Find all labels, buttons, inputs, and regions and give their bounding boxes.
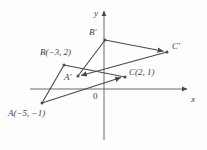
segment-b-c	[64, 65, 125, 77]
vertex-cprime-marker	[166, 51, 169, 54]
point-label-b-prime: B′	[89, 28, 96, 37]
point-label-a-prime: A′	[64, 73, 71, 82]
vertex-c-marker	[124, 76, 127, 79]
vertex-aprime-marker	[77, 75, 80, 78]
point-label-c: C(2, 1)	[129, 68, 155, 77]
point-label-a: A(−5, −1)	[8, 109, 45, 118]
x-axis-label: x	[191, 95, 195, 104]
segment-bprime-cprime	[105, 40, 164, 51]
vertex-a-marker	[41, 102, 44, 105]
y-axis-label: y	[94, 9, 98, 18]
coordinate-plane-figure: y x 0 A(−5, −1) B(−3, 2) C(2, 1) A′ B′ C…	[0, 0, 207, 150]
point-label-b: B(−3, 2)	[40, 48, 71, 57]
triangle-abc	[42, 65, 125, 103]
vertex-bprime-marker	[104, 39, 107, 42]
origin-label: 0	[93, 92, 98, 101]
segment-a-c	[42, 78, 121, 103]
figure-canvas	[0, 0, 207, 150]
vertex-b-marker	[63, 64, 66, 67]
point-label-c-prime: C′	[172, 42, 180, 51]
